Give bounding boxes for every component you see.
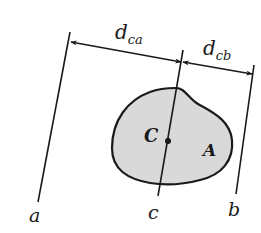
label-dca: dca bbox=[115, 20, 143, 47]
label-axis-a: a bbox=[29, 204, 40, 226]
label-centroid: C bbox=[144, 125, 159, 146]
label-dcb: dcb bbox=[203, 36, 231, 63]
label-axis-c: c bbox=[148, 201, 159, 223]
diagram-canvas: dca dcb C A a c b bbox=[0, 0, 261, 233]
label-axis-b: b bbox=[228, 198, 240, 220]
axis-line-b bbox=[236, 65, 254, 194]
dimension-arrow-dca bbox=[71, 42, 181, 62]
area-region bbox=[112, 88, 232, 184]
centroid-point bbox=[165, 138, 171, 144]
dimension-arrow-dcb bbox=[183, 62, 252, 74]
axis-line-a bbox=[38, 32, 70, 202]
label-area: A bbox=[201, 140, 216, 160]
diagram-svg: dca dcb C A a c b bbox=[0, 0, 261, 233]
